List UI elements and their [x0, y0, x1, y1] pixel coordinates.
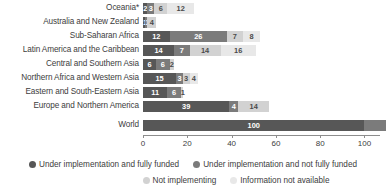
segment-value-label: 6: [143, 59, 156, 70]
category-label: Central and Southern Asia: [0, 58, 143, 70]
segment-value-label: 11: [143, 87, 167, 98]
legend-label: Under implementation and fully funded: [39, 160, 179, 169]
axis-tick: [320, 135, 321, 138]
segment-value-label: 14: [190, 45, 221, 56]
segment-value-label: 6: [167, 87, 180, 98]
x-axis: 020406080100: [143, 135, 380, 155]
segment-value-label: 6: [156, 59, 169, 70]
legend-label: Not implementing: [153, 176, 217, 185]
category-label: Northern Africa and Western Asia: [0, 72, 143, 84]
segment-value-label: 2: [170, 59, 174, 70]
axis-tick-label: 60: [271, 139, 280, 148]
chart-row: Oceania*23612: [0, 2, 386, 14]
axis-tick-label: 0: [141, 139, 145, 148]
segment-value-label: 15: [143, 73, 176, 84]
bar-track: 15334: [143, 73, 380, 84]
segment-value-label: 26: [170, 31, 228, 42]
segment-value-label: 39: [143, 101, 229, 112]
x-axis-line: [143, 135, 380, 136]
legend-row-secondary: Not implementingInformation not availabl…: [0, 172, 386, 188]
segment-value-label: 100: [143, 120, 364, 131]
chart-row: Latin America and the Caribbean1471416: [0, 44, 386, 56]
bar-track: 23612: [143, 3, 380, 14]
category-label: Oceania*: [0, 2, 143, 14]
chart-row: Northern Africa and Western Asia15334: [0, 72, 386, 84]
axis-tick-label: 40: [227, 139, 236, 148]
legend-row-primary: Under implementation and fully fundedUnd…: [0, 156, 386, 172]
chart-row: Europe and Northern America39414: [0, 100, 386, 112]
legend-label: Under implementation and not fully funde…: [203, 160, 357, 169]
segment-value-label: 4: [190, 73, 199, 84]
category-label: Latin America and the Caribbean: [0, 44, 143, 56]
segment-value-label: 12: [143, 31, 170, 42]
category-label: Sub-Saharan Africa: [0, 30, 143, 42]
segment-value-label: 14: [238, 101, 269, 112]
segment-value-label: 1: [181, 87, 183, 98]
segment-value-label: 4: [229, 101, 238, 112]
legend-swatch-icon: [193, 161, 200, 168]
segment-value-label: 8: [243, 31, 261, 42]
legend-swatch-icon: [230, 177, 237, 184]
legend-item[interactable]: Information not available: [230, 176, 329, 185]
legend-swatch-icon: [29, 161, 36, 168]
axis-tick-label: 80: [316, 139, 325, 148]
segment-value-label: 12: [167, 3, 194, 14]
legend-swatch-icon: [143, 177, 150, 184]
category-label: Eastern and South-Eastern Asia: [0, 86, 143, 98]
bar-track: 1161: [143, 87, 380, 98]
segment-value-label: 14: [143, 45, 174, 56]
segment-value-label: 4: [147, 17, 156, 28]
axis-tick: [364, 135, 365, 138]
bar-track: 114: [143, 17, 380, 28]
chart-row: World100563259: [0, 119, 386, 131]
chart-row: Sub-Saharan Africa122678: [0, 30, 386, 42]
stacked-bar-chart: Oceania*23612Australia and New Zealand11…: [0, 0, 386, 196]
category-label: Australia and New Zealand: [0, 16, 143, 28]
category-label: World: [0, 119, 143, 131]
bar-track: 662: [143, 59, 380, 70]
plot-area: Oceania*23612Australia and New Zealand11…: [0, 2, 386, 133]
segment-value-label: 3: [183, 73, 190, 84]
axis-tick-label: 100: [358, 139, 371, 148]
chart-row: Eastern and South-Eastern Asia1161: [0, 86, 386, 98]
legend-label: Information not available: [240, 176, 329, 185]
chart-legend: Under implementation and fully fundedUnd…: [0, 156, 386, 188]
segment-value-label: 3: [176, 73, 183, 84]
chart-row: Central and Southern Asia662: [0, 58, 386, 70]
bar-track: 122678: [143, 31, 380, 42]
axis-tick-label: 20: [183, 139, 192, 148]
segment-value-label: 7: [227, 31, 243, 42]
bar-track: 1471416: [143, 45, 380, 56]
axis-tick: [276, 135, 277, 138]
segment-value-label: 3: [147, 3, 154, 14]
chart-row: Australia and New Zealand114: [0, 16, 386, 28]
segment-value-label: 56: [364, 120, 386, 131]
segment-value-label: 6: [154, 3, 167, 14]
segment-value-label: 7: [174, 45, 190, 56]
legend-item[interactable]: Under implementation and fully funded: [29, 160, 179, 169]
axis-tick: [187, 135, 188, 138]
segment-value-label: 16: [221, 45, 256, 56]
legend-item[interactable]: Under implementation and not fully funde…: [193, 160, 357, 169]
axis-tick: [143, 135, 144, 138]
category-label: Europe and Northern America: [0, 100, 143, 112]
legend-item[interactable]: Not implementing: [143, 176, 217, 185]
axis-tick: [232, 135, 233, 138]
bar-track: 100563259: [143, 120, 380, 131]
bar-track: 39414: [143, 101, 380, 112]
